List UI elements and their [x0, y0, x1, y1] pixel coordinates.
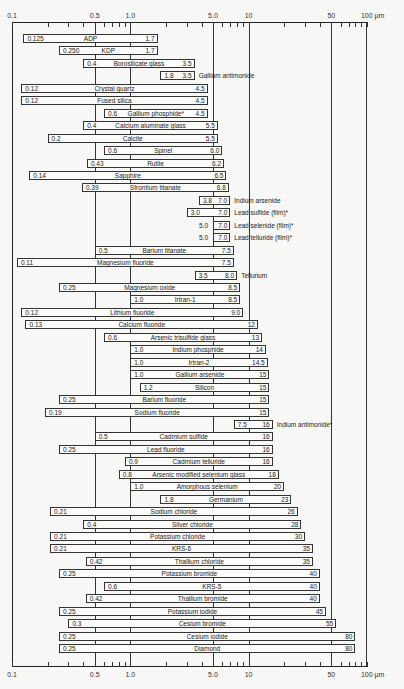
low-wavelength-label: 0.25: [63, 446, 76, 454]
high-wavelength-label: 30: [295, 533, 302, 541]
tick-mark: [125, 662, 126, 667]
material-name: Potassium iodide: [168, 608, 218, 616]
low-wavelength-label: 1.8: [164, 496, 173, 504]
high-wavelength-label: 16: [263, 421, 270, 429]
material-name: Cesium iodide: [187, 633, 228, 641]
material-name: Barium fluoride: [142, 396, 186, 404]
material-name: Calcium fluoride: [118, 321, 165, 329]
tick-mark: [367, 22, 368, 27]
high-wavelength-label: 15: [259, 371, 266, 379]
low-wavelength-label: 0.12: [25, 97, 38, 105]
high-wavelength-label: 40: [310, 595, 317, 603]
tick-mark: [222, 662, 223, 667]
tick-mark: [284, 662, 285, 667]
tick-mark: [202, 662, 203, 667]
material-name: Gallium arsenide: [175, 371, 224, 379]
high-wavelength-label: 4.5: [196, 110, 205, 118]
tick-mark: [187, 22, 188, 27]
tick-mark: [230, 662, 231, 667]
low-wavelength-label: 1.8: [164, 72, 173, 80]
low-wavelength-label: 0.6: [108, 334, 117, 342]
high-wavelength-label: 8.0: [225, 272, 234, 280]
high-wavelength-label: 28: [291, 521, 298, 529]
material-bar: 0.640KRS-5: [104, 582, 320, 591]
tick-mark: [213, 662, 214, 667]
material-name: KRS-5: [202, 583, 221, 591]
tick-mark: [166, 662, 167, 667]
high-wavelength-label: 14: [256, 346, 263, 354]
high-wavelength-label: 4.5: [196, 85, 205, 93]
high-wavelength-label: 15: [259, 384, 266, 392]
x-tick-label: 5.0: [208, 671, 218, 678]
material-name: Cadmium sulfide: [159, 433, 207, 441]
tick-mark: [320, 22, 321, 27]
tick-mark: [48, 22, 49, 27]
material-name: Indium antimonide*: [277, 420, 333, 429]
transmission-range-chart: 0.10.51.05.01050100 µm 0.10.51.05.010501…: [0, 0, 404, 689]
tick-mark: [119, 662, 120, 667]
material-name: Strontium titanate: [130, 184, 181, 192]
tick-mark: [166, 22, 167, 27]
material-name: Spinel: [154, 147, 172, 155]
material-bar: 1.014.5Irtran-2: [130, 358, 267, 367]
material-name: Gallium phosphide*: [128, 110, 184, 118]
material-bar: 0.2580Cesium iodide: [59, 632, 355, 641]
material-name: Lead telluride (film)*: [234, 233, 292, 242]
low-wavelength-label: 0.5: [99, 247, 108, 255]
high-wavelength-label: 80: [345, 645, 352, 653]
tick-mark: [331, 662, 332, 667]
low-wavelength-label: 0.21: [54, 545, 67, 553]
material-name: Silver chloride: [172, 521, 213, 529]
tick-mark: [305, 22, 306, 27]
high-wavelength-label: 5.5: [206, 135, 215, 143]
high-wavelength-label: 80: [345, 633, 352, 641]
material-name: Irtran-1: [175, 296, 196, 304]
material-bar: 0.146.5Sapphire: [29, 171, 226, 180]
material-bar: 0.4235Thallium chloride: [86, 557, 313, 566]
material-bar: 0.45.5Calcium aluminate glass: [83, 121, 218, 130]
material-name: Sodium fluoride: [135, 409, 180, 417]
x-tick-label: 100 µm: [361, 12, 385, 19]
material-name: Lead sulfide (film)*: [234, 208, 288, 217]
material-name: Borosilicate glass: [114, 60, 165, 68]
high-wavelength-label: 15: [259, 396, 266, 404]
material-bar: 1.015Gallium arsenide: [130, 370, 269, 379]
tick-mark: [249, 22, 250, 27]
low-wavelength-label: 5.0: [199, 221, 208, 230]
tick-mark: [355, 662, 356, 667]
high-wavelength-label: 7.0: [218, 222, 227, 230]
high-wavelength-label: 1.7: [146, 35, 155, 43]
tick-mark: [104, 22, 105, 27]
low-wavelength-label: 0.39: [86, 184, 99, 192]
tick-mark: [237, 22, 238, 27]
material-bar: 0.258.5Magnesium oxide: [59, 283, 240, 292]
tick-mark: [48, 662, 49, 667]
material-name: Calcium aluminate glass: [115, 122, 185, 130]
material-name: Cadmium telluride: [173, 458, 225, 466]
material-name: Arsenic modified selenium glass: [152, 471, 245, 479]
x-tick-label: 100 µm: [361, 671, 385, 678]
high-wavelength-label: 26: [287, 508, 294, 516]
tick-mark: [367, 662, 368, 667]
low-wavelength-label: 0.25: [63, 608, 76, 616]
material-bar: 3.87.0: [199, 196, 230, 205]
material-bar: 0.428Silver chloride: [83, 520, 301, 529]
tick-mark: [355, 22, 356, 27]
high-wavelength-label: 40: [310, 570, 317, 578]
tick-mark: [361, 662, 362, 667]
tick-mark: [187, 662, 188, 667]
material-bar: 0.43.5Borosilicate glass: [83, 59, 194, 68]
material-name: Sodium chloride: [151, 508, 198, 516]
low-wavelength-label: 0.4: [87, 521, 96, 529]
material-bar: 0.4240Thallium bromide: [86, 594, 320, 603]
high-wavelength-label: 7.5: [222, 259, 231, 267]
material-bar: 3.58.0: [195, 271, 237, 280]
high-wavelength-label: 35: [303, 545, 310, 553]
low-wavelength-label: 0.12: [25, 309, 38, 317]
high-wavelength-label: 16: [262, 446, 269, 454]
material-name: Lithium fluoride: [110, 309, 154, 317]
material-name: Rutile: [147, 160, 164, 168]
x-tick-label: 1.0: [125, 671, 135, 678]
material-bar: 0.117.5Magnesium fluoride: [17, 258, 234, 267]
material-name: Amorphous selenium: [177, 483, 238, 491]
